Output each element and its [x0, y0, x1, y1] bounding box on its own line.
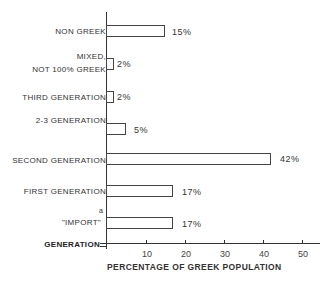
- category-label-first-generation: FIRST GENERATION: [24, 185, 106, 198]
- x-tick-10: [146, 240, 147, 244]
- value-label-second-generation: 42%: [280, 153, 300, 165]
- value-label-2-3-generation: 5%: [134, 124, 148, 136]
- value-label-third-generation: 2%: [117, 91, 131, 103]
- x-tick-label-30: 30: [215, 249, 235, 259]
- footnote-marker-a: a: [99, 207, 103, 214]
- x-tick-label-50: 50: [293, 249, 313, 259]
- category-label-import: "IMPORT": [62, 216, 101, 229]
- horizontal-bar-chart: NON GREEK 15% MIXED, NOT 100% GREEK 2% T…: [0, 0, 334, 282]
- bar-import: [106, 217, 173, 229]
- value-label-import: 17%: [182, 218, 202, 230]
- x-tick-20: [185, 240, 186, 244]
- bar-mixed: [106, 58, 114, 70]
- x-tick-label-10: 10: [137, 249, 157, 259]
- x-axis-line: [100, 243, 320, 244]
- x-tick-50: [302, 240, 303, 244]
- bar-first-generation: [106, 185, 173, 197]
- category-label-mixed-line2: NOT 100% GREEK: [32, 63, 106, 76]
- category-label-non-greek: NON GREEK: [55, 25, 106, 38]
- category-label-2-3-generation: 2-3 GENERATION: [36, 114, 106, 127]
- y-axis-title: GENERATION: [44, 240, 100, 249]
- x-tick-label-40: 40: [254, 249, 274, 259]
- x-tick-30: [224, 240, 225, 244]
- bar-non-greek: [106, 25, 165, 37]
- x-axis-title: PERCENTAGE OF GREEK POPULATION: [107, 262, 282, 272]
- bar-2-3-generation: [106, 123, 126, 135]
- category-label-mixed-line1: MIXED,: [77, 50, 106, 63]
- bar-second-generation: [106, 153, 271, 165]
- category-label-second-generation: SECOND GENERATION: [12, 154, 106, 167]
- category-label-third-generation: THIRD GENERATION: [22, 91, 106, 104]
- value-label-mixed: 2%: [117, 58, 131, 70]
- x-tick-40: [263, 240, 264, 244]
- axis-origin-dash: [100, 246, 106, 247]
- value-label-non-greek: 15%: [172, 26, 192, 38]
- bar-third-generation: [106, 91, 114, 103]
- x-tick-label-20: 20: [176, 249, 196, 259]
- value-label-first-generation: 17%: [182, 186, 202, 198]
